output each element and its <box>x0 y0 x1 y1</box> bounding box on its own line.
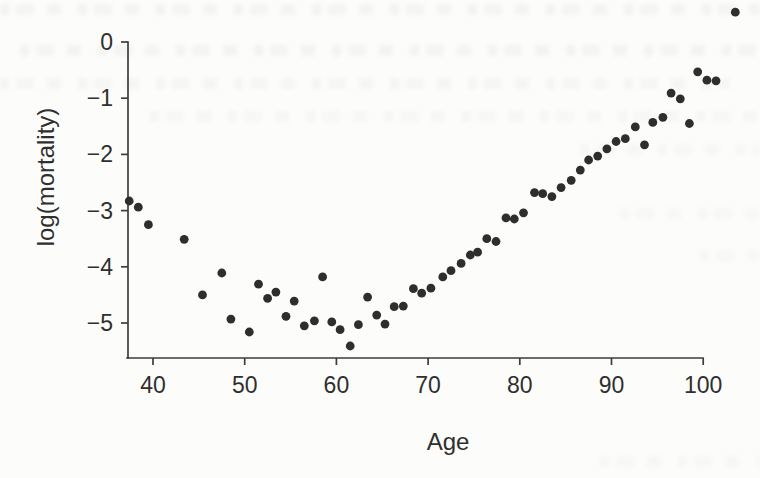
y-axis-ticks: 0−1−2−3−4−5 <box>87 29 128 336</box>
data-point <box>530 188 539 197</box>
axes <box>127 42 703 358</box>
x-tick-label: 40 <box>140 372 166 398</box>
data-point <box>390 302 399 311</box>
x-tick-label: 70 <box>415 372 441 398</box>
y-axis-title: log(mortality) <box>32 108 59 247</box>
data-point <box>427 284 436 293</box>
data-point <box>282 312 291 321</box>
y-tick-label: −3 <box>87 198 113 224</box>
data-point <box>693 67 702 76</box>
data-point <box>447 266 456 275</box>
data-point <box>372 311 381 320</box>
data-point <box>593 152 602 161</box>
data-point <box>336 325 345 334</box>
data-point <box>731 8 740 17</box>
data-point <box>180 235 189 244</box>
data-point <box>557 183 566 192</box>
x-tick-label: 90 <box>599 372 625 398</box>
data-point <box>659 113 668 122</box>
x-tick-label: 60 <box>324 372 350 398</box>
data-point <box>272 288 281 297</box>
data-point <box>640 140 649 149</box>
data-point <box>685 119 694 128</box>
data-point <box>502 214 511 223</box>
data-point <box>254 280 263 289</box>
data-point <box>703 76 712 85</box>
data-point <box>417 289 426 298</box>
data-point <box>290 297 299 306</box>
x-axis-title: Age <box>427 428 470 455</box>
data-point <box>134 203 143 212</box>
data-point <box>548 192 557 201</box>
data-point <box>676 94 685 103</box>
data-point <box>227 315 236 324</box>
data-point <box>612 137 621 146</box>
x-tick-label: 100 <box>684 372 722 398</box>
mortality-vs-age-scatter-plot: 405060708090100 0−1−2−3−4−5 Age log(mort… <box>0 0 760 478</box>
data-point <box>667 89 676 98</box>
data-point <box>399 302 408 311</box>
data-point <box>584 156 593 165</box>
data-point <box>381 320 390 329</box>
data-point <box>363 293 372 302</box>
y-tick-label: 0 <box>100 29 113 55</box>
data-point <box>354 320 363 329</box>
data-point <box>310 316 319 325</box>
data-point <box>712 76 721 85</box>
data-point <box>538 189 547 198</box>
scatter-points <box>125 8 740 351</box>
data-point <box>510 215 519 224</box>
data-point <box>346 342 355 351</box>
data-point <box>603 144 612 153</box>
data-point <box>198 291 207 300</box>
y-tick-label: −2 <box>87 141 113 167</box>
x-tick-label: 50 <box>232 372 258 398</box>
data-point <box>409 284 418 293</box>
data-point <box>519 208 528 217</box>
data-point <box>621 134 630 143</box>
data-point <box>300 321 309 330</box>
data-point <box>263 294 272 303</box>
data-point <box>492 237 501 246</box>
x-tick-label: 80 <box>507 372 533 398</box>
data-point <box>631 123 640 132</box>
y-tick-label: −1 <box>87 85 113 111</box>
data-point <box>576 166 585 175</box>
data-point <box>482 234 491 243</box>
data-point <box>567 176 576 185</box>
data-point <box>457 259 466 268</box>
data-point <box>125 197 134 206</box>
x-axis-ticks: 405060708090100 <box>140 358 722 398</box>
data-point <box>473 248 482 257</box>
data-point <box>144 220 153 229</box>
y-tick-label: −4 <box>87 254 113 280</box>
data-point <box>318 273 327 282</box>
data-point <box>648 118 657 127</box>
data-point <box>245 328 254 337</box>
data-point <box>217 269 226 278</box>
data-point <box>327 318 336 327</box>
y-tick-label: −5 <box>87 310 113 336</box>
scanned-book-page: 405060708090100 0−1−2−3−4−5 Age log(mort… <box>0 0 760 478</box>
data-point <box>438 273 447 282</box>
